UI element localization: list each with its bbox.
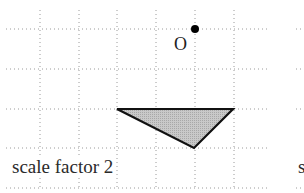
scale-factor-caption: scale factor 2 (10, 156, 115, 178)
diagram-canvas: O scale factor 2 s (0, 0, 304, 193)
center-of-enlargement-point (191, 25, 199, 33)
next-panel-caption-fragment: s (298, 156, 304, 178)
shaded-triangle (117, 109, 233, 148)
center-label: O (174, 34, 187, 54)
